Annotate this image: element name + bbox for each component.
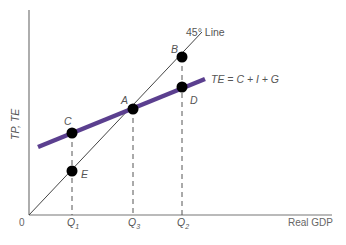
point-b [177, 52, 188, 63]
origin-label: 0 [19, 217, 25, 228]
forty-five-degree-line [29, 32, 202, 215]
point-e [67, 166, 78, 177]
keynesian-cross-diagram: A B C D E 45° Line TE = C + I + G TP, TE… [0, 0, 346, 245]
tick-q2: Q2 [177, 216, 189, 230]
point-d [177, 82, 188, 93]
label-c: C [64, 115, 72, 127]
label-b: B [171, 43, 178, 55]
label-a: A [120, 94, 128, 106]
tick-q1: Q1 [67, 216, 79, 230]
y-axis-label: TP, TE [9, 108, 21, 140]
label-e: E [81, 168, 89, 180]
x-axis-label: Real GDP [288, 217, 333, 228]
forty-five-line-label: 45° Line [186, 26, 225, 38]
te-line-label: TE = C + I + G [211, 73, 279, 85]
point-a [128, 104, 139, 115]
tick-q3: Q3 [128, 216, 140, 230]
label-d: D [190, 94, 198, 106]
point-c [67, 128, 78, 139]
